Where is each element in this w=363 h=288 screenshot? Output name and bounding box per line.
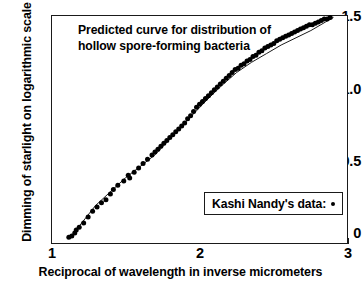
legend-box: Kashi Nandy's data: xyxy=(204,192,343,215)
x-tick-label-2: 2 xyxy=(185,246,215,261)
data-point xyxy=(108,191,113,196)
x-axis-label: Reciprocal of wavelength in inverse micr… xyxy=(0,265,361,279)
data-point xyxy=(86,215,91,220)
data-point xyxy=(99,200,104,205)
data-point xyxy=(182,121,187,126)
chart-title-line-2: hollow spore-forming bacteria xyxy=(78,38,308,54)
chart-title: Predicted curve for distribution of holl… xyxy=(78,22,308,55)
x-tick-label-1: 1 xyxy=(37,246,67,261)
data-point xyxy=(132,170,137,175)
y-axis-label: Dimming of starlight on logarithmic scal… xyxy=(20,0,34,247)
data-point xyxy=(95,204,100,209)
x-tick-label-3: 3 xyxy=(333,246,363,261)
data-point xyxy=(127,176,132,181)
chart-title-line-1: Predicted curve for distribution of xyxy=(78,22,308,38)
data-point xyxy=(103,197,108,202)
data-point xyxy=(90,209,95,214)
x-tick-3 xyxy=(348,238,349,244)
data-point xyxy=(328,15,333,20)
data-point xyxy=(81,220,86,225)
data-point xyxy=(145,157,150,162)
data-point xyxy=(115,183,120,188)
legend-dot-marker xyxy=(331,202,335,206)
legend-label: Kashi Nandy's data: xyxy=(212,197,326,211)
data-point xyxy=(136,165,141,170)
data-point xyxy=(121,178,126,183)
data-point xyxy=(77,225,82,230)
data-point xyxy=(141,161,146,166)
data-point xyxy=(111,187,116,192)
data-point xyxy=(188,113,193,118)
data-point xyxy=(191,109,196,114)
